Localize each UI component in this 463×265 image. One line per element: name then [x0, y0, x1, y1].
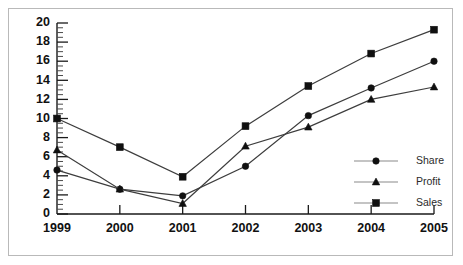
data-point-circle [373, 158, 379, 164]
data-point-square [368, 50, 375, 57]
x-tick-label: 2002 [232, 221, 260, 235]
x-axis: 1999200020012002200320042005 [43, 205, 448, 235]
plot-series [53, 26, 437, 206]
legend-item-share[interactable]: Share [354, 154, 444, 166]
data-point-square [431, 26, 438, 33]
y-tick-label: 20 [36, 15, 50, 29]
legend-label: Profit [416, 175, 441, 187]
x-tick-label: 2003 [294, 221, 322, 235]
legend-label: Share [416, 154, 444, 166]
series-sales [54, 26, 438, 180]
y-tick-label: 12 [36, 92, 50, 106]
data-point-square [305, 83, 312, 90]
y-tick-label: 18 [36, 34, 50, 48]
legend-item-profit[interactable]: Profit [354, 175, 441, 187]
chart-legend: ShareProfitSales [354, 154, 444, 208]
data-point-circle [305, 112, 311, 118]
x-tick-label: 2004 [357, 221, 385, 235]
y-tick-label: 0 [43, 206, 50, 220]
legend-label: Sales [416, 196, 442, 208]
x-tick-label: 2005 [420, 221, 448, 235]
data-point-circle [179, 193, 185, 199]
series-line [57, 30, 434, 177]
x-tick-label: 1999 [43, 221, 71, 235]
data-point-square [54, 115, 61, 122]
y-tick-label: 2 [43, 187, 50, 201]
data-point-square [179, 173, 186, 180]
y-tick-label: 6 [43, 149, 50, 163]
x-tick-label: 2000 [106, 221, 134, 235]
y-tick-label: 10 [36, 111, 50, 125]
data-point-circle [368, 85, 374, 91]
data-point-circle [242, 163, 248, 169]
x-tick-label: 2001 [169, 221, 197, 235]
chart-figure: 02468101214161820 1999200020012002200320… [8, 8, 453, 256]
data-point-triangle [430, 83, 437, 90]
y-tick-label: 4 [43, 168, 50, 182]
line-chart: 02468101214161820 1999200020012002200320… [9, 9, 452, 255]
y-axis: 02468101214161820 [36, 15, 68, 220]
y-tick-label: 14 [36, 73, 50, 87]
data-point-square [373, 200, 380, 207]
legend-item-sales[interactable]: Sales [354, 196, 442, 208]
y-tick-label: 16 [36, 53, 50, 67]
data-point-circle [431, 58, 437, 64]
data-point-circle [54, 167, 60, 173]
y-tick-label: 8 [43, 130, 50, 144]
series-profit [53, 83, 437, 206]
data-point-square [242, 123, 249, 130]
data-point-square [116, 144, 123, 151]
